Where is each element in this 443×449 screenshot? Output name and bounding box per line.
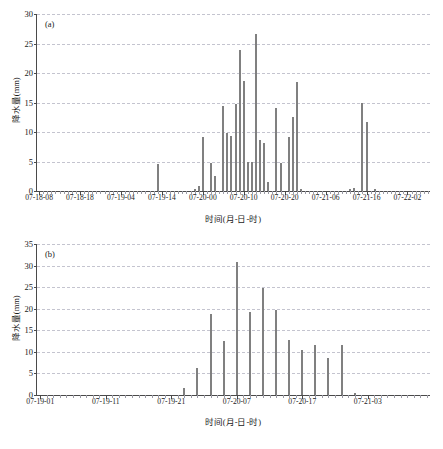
y-tick-mark [34,373,37,374]
bar [194,189,196,191]
x-tick-mark [96,191,97,194]
bar [275,310,277,395]
x-tick-mark [387,395,388,398]
x-tick-mark [100,191,101,194]
x-tick-mark [152,395,153,398]
x-tick-mark [328,395,329,398]
gridline [37,73,430,74]
bar [354,393,356,395]
gridline [37,266,430,267]
bar [183,388,185,395]
x-tick-label-a: 07-20-10 [230,194,258,202]
bar [251,162,253,191]
y-tick-mark [34,352,37,353]
x-tick-label-b: 07-19-21 [157,398,185,406]
y-tick-mark [34,73,37,74]
gridline [37,132,430,133]
x-tick-mark [394,395,395,398]
x-tick-mark [350,191,351,194]
x-tick-mark [391,191,392,194]
bar [235,104,237,191]
bar [230,136,232,191]
x-tick-mark [305,191,306,194]
x-tick-mark [60,395,61,398]
bar [223,341,225,395]
bar [236,262,238,395]
x-tick-mark [348,395,349,398]
y-tick-label-b: 5 [29,369,33,378]
gridline [37,330,430,331]
y-tick-label-a: 10 [25,128,34,137]
x-tick-mark [309,191,310,194]
y-tick-mark [34,162,37,163]
x-tick-label-b: 07-20-07 [223,398,251,406]
bar [262,288,264,395]
y-tick-mark [34,14,37,15]
x-tick-label-a: 07-22-02 [394,194,422,202]
y-tick-label-b: 20 [25,304,34,313]
gridline [37,44,430,45]
x-axis-title-b: 时间(月-日-时) [205,418,261,427]
x-tick-mark [424,191,425,194]
y-tick-label-b: 15 [25,326,34,335]
x-tick-mark [178,191,179,194]
x-tick-mark [401,395,402,398]
bar [300,189,302,191]
bar [361,103,363,191]
x-tick-mark [60,191,61,194]
bar [280,163,282,191]
x-tick-mark [264,191,265,194]
y-tick-mark [34,395,37,396]
x-tick-mark [322,395,323,398]
bar [374,189,376,191]
x-tick-mark [132,395,133,398]
x-tick-mark [141,191,142,194]
y-tick-label-b: 10 [25,348,34,357]
chart-panel-a: (a) 05101520253007-18-0807-18-1807-19-04… [0,0,443,232]
x-tick-mark [407,395,408,398]
x-tick-mark [283,395,284,398]
y-tick-label-b: 25 [25,283,34,292]
x-tick-mark [211,395,212,398]
y-tick-label-b: 35 [25,240,34,249]
y-tick-mark [34,44,37,45]
panel-label-a: (a) [45,20,54,29]
bar [314,345,316,395]
gridline [37,103,430,104]
gridline [37,309,430,310]
y-axis-title-a: 降水量(mm) [12,68,21,132]
x-tick-mark [414,395,415,398]
bar [341,345,343,395]
bar [296,82,298,191]
bar [353,188,355,191]
gridline [37,14,430,15]
x-tick-mark [335,395,336,398]
y-tick-label-a: 5 [29,157,33,166]
x-tick-mark [387,191,388,194]
x-tick-label-a: 07-19-04 [107,194,135,202]
chart-panel-b: (b) 0510152025303507-19-0107-19-1107-19-… [0,232,443,449]
x-tick-label-a: 07-20-20 [271,194,299,202]
bar [349,189,351,191]
x-tick-mark [342,191,343,194]
bar [292,117,294,191]
x-tick-label-a: 07-18-18 [66,194,94,202]
y-tick-mark [34,244,37,245]
x-tick-label-a: 07-20-00 [189,194,217,202]
bar [239,50,241,191]
y-tick-mark [34,132,37,133]
bar [210,163,212,191]
x-tick-mark [263,395,264,398]
x-tick-mark [197,395,198,398]
x-tick-mark [66,395,67,398]
bar [214,176,216,191]
bar [288,340,290,395]
x-tick-mark [191,395,192,398]
x-tick-mark [420,395,421,398]
y-tick-label-a: 15 [25,98,34,107]
bar [288,137,290,191]
x-tick-mark [346,191,347,194]
bar [243,81,245,191]
x-tick-label-b: 07-19-01 [26,398,54,406]
panel-label-b: (b) [45,250,55,259]
